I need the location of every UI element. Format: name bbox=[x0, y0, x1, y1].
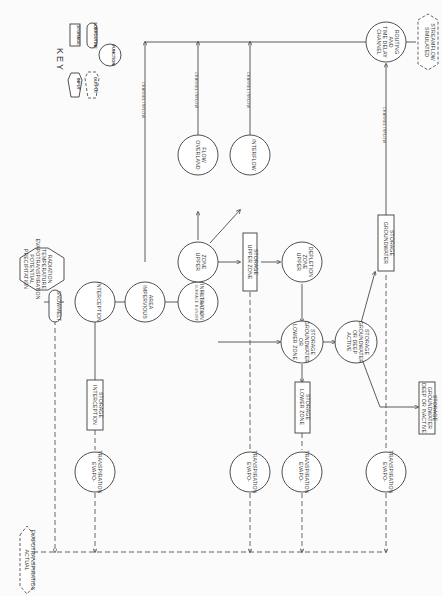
svg-text:TEMPERATURE: TEMPERATURE bbox=[41, 249, 47, 289]
svg-text:STORAGE: STORAGE bbox=[364, 329, 370, 355]
label-surface-runoff: SURFACE RUNOFF bbox=[194, 284, 198, 322]
svg-text:STORAGE: STORAGE bbox=[432, 395, 438, 421]
svg-text:UPPER: UPPER bbox=[195, 253, 201, 272]
svg-text:EVAPOTRANSPIRATION: EVAPOTRANSPIRATION bbox=[30, 530, 36, 591]
function-channel-routing: CHANNEL TIME DELAY AND ROUTING bbox=[366, 22, 406, 62]
svg-text:OVERLAND: OVERLAND bbox=[195, 140, 201, 169]
svg-text:STORAGE: STORAGE bbox=[253, 249, 259, 275]
svg-text:GROUNDWATER: GROUNDWATER bbox=[358, 321, 364, 363]
function-active-groundwater: ACTIVE OR DEEP GROUNDWATER STORAGE bbox=[335, 321, 377, 363]
svg-text:EVAPO-: EVAPO- bbox=[298, 462, 304, 482]
label-channel-inflow-3: CHANNEL INFLOW bbox=[246, 72, 250, 109]
function-upper-zone-depletion: UPPER ZONE DEPLETION bbox=[282, 242, 322, 282]
key-input-label: INPUT bbox=[76, 78, 81, 91]
upperzone-to-interflow-line bbox=[210, 210, 240, 243]
svg-text:ZONE: ZONE bbox=[201, 255, 207, 270]
svg-text:ZONE: ZONE bbox=[302, 255, 308, 270]
svg-text:AREA: AREA bbox=[148, 295, 154, 310]
key-function-label: FUNCTION bbox=[111, 45, 116, 66]
svg-text:EVAPOTRANSPIRATION: EVAPOTRANSPIRATION bbox=[35, 239, 41, 300]
svg-text:TRANSPIRATION: TRANSPIRATION bbox=[97, 451, 103, 494]
svg-text:INTERCEPTION: INTERCEPTION bbox=[92, 385, 98, 425]
svg-text:IMPERVIOUS: IMPERVIOUS bbox=[142, 285, 148, 319]
svg-text:GROUNDWATER: GROUNDWATER bbox=[427, 387, 433, 429]
svg-text:GROUNDWATER: GROUNDWATER bbox=[383, 222, 389, 264]
svg-text:LOWER ZONE: LOWER ZONE bbox=[292, 324, 298, 360]
storage-interception: INTERCEPTION STORAGE bbox=[87, 380, 104, 430]
svg-text:OR: OR bbox=[298, 338, 304, 346]
svg-text:AND: AND bbox=[388, 36, 394, 47]
svg-text:STREAMFLOW: STREAMFLOW bbox=[430, 23, 436, 61]
edge-labels: CHANNEL INFLOW CHANNEL INFLOW CHANNEL IN… bbox=[141, 72, 386, 322]
label-interflow-small: INTERFLOW bbox=[199, 291, 203, 315]
label-channel-inflow-2: CHANNEL INFLOW bbox=[194, 72, 198, 109]
legend-key: KEY STORAGE SUBROUTINE FUNCTION INPUT OU… bbox=[55, 22, 121, 98]
svg-text:EVAPO-: EVAPO- bbox=[246, 462, 252, 482]
svg-text:SIMULATED: SIMULATED bbox=[424, 27, 430, 57]
subroutine-snowmelt: SNOWMELT bbox=[49, 290, 62, 322]
svg-text:TRANSPIRATION: TRANSPIRATION bbox=[388, 451, 394, 494]
svg-text:SNOWMELT: SNOWMELT bbox=[56, 291, 62, 322]
svg-text:POTENTIAL: POTENTIAL bbox=[29, 254, 35, 284]
svg-text:TRANSPIRATION: TRANSPIRATION bbox=[304, 451, 310, 494]
watershed-model-flowchart: KEY STORAGE SUBROUTINE FUNCTION INPUT OU… bbox=[0, 0, 442, 596]
svg-text:INTERCEPTION: INTERCEPTION bbox=[96, 282, 102, 322]
function-impervious-area: IMPERVIOUS AREA bbox=[125, 282, 165, 322]
output-actual-evapotranspiration: ACTUAL EVAPOTRANSPIRATION bbox=[20, 526, 36, 594]
label-channel-inflow-1: CHANNEL INFLOW bbox=[141, 82, 145, 119]
function-evapotranspiration-4: EVAPO- TRANSPIRATION bbox=[366, 451, 406, 494]
svg-text:STORAGE: STORAGE bbox=[310, 329, 316, 355]
function-interception: INTERCEPTION bbox=[75, 282, 115, 322]
function-evapotranspiration-2: EVAPO- TRANSPIRATION bbox=[230, 451, 270, 494]
svg-text:EVAPO-: EVAPO- bbox=[91, 462, 97, 482]
label-channel-inflow-4: CHANNEL INFLOW bbox=[382, 107, 386, 144]
function-overland-flow: OVERLAND FLOW bbox=[178, 135, 218, 175]
svg-text:ACTIVE: ACTIVE bbox=[346, 332, 352, 352]
svg-text:PRECIPITATION: PRECIPITATION bbox=[23, 249, 29, 289]
function-interflow: INTERFLOW bbox=[230, 135, 270, 175]
svg-text:ROUTING: ROUTING bbox=[394, 30, 400, 55]
storage-deep-inactive-groundwater: DEEP OR INACTIVE GROUNDWATER STORAGE bbox=[419, 382, 438, 434]
storage-upper-zone: UPPER ZONE STORAGE bbox=[243, 233, 259, 291]
key-output-label: OUTPUT bbox=[93, 77, 98, 94]
svg-text:UPPER ZONE: UPPER ZONE bbox=[247, 245, 253, 280]
svg-text:UPPER: UPPER bbox=[296, 253, 302, 272]
key-storage-label: STORAGE bbox=[76, 25, 81, 45]
svg-text:INTERFLOW: INTERFLOW bbox=[251, 139, 257, 170]
svg-text:DEPLETION: DEPLETION bbox=[308, 247, 314, 277]
activegw-to-deep-line bbox=[363, 362, 418, 407]
svg-text:CHANNEL: CHANNEL bbox=[376, 29, 382, 55]
svg-text:ACTUAL: ACTUAL bbox=[24, 549, 30, 570]
svg-text:FLOW: FLOW bbox=[201, 147, 207, 162]
svg-text:TIME DELAY: TIME DELAY bbox=[382, 26, 388, 58]
svg-text:STORAGE: STORAGE bbox=[98, 392, 104, 418]
svg-text:DEEP OR INACTIVE: DEEP OR INACTIVE bbox=[421, 383, 427, 434]
svg-text:STORAGE: STORAGE bbox=[389, 230, 395, 256]
svg-text:RADIATION: RADIATION bbox=[47, 255, 53, 284]
output-simulated-streamflow: SIMULATED STREAMFLOW bbox=[418, 14, 438, 70]
function-evapotranspiration-3: EVAPO- TRANSPIRATION bbox=[282, 451, 322, 494]
storage-groundwater: GROUNDWATER STORAGE bbox=[378, 215, 395, 271]
function-evapotranspiration-1: EVAPO- TRANSPIRATION bbox=[75, 451, 115, 494]
function-upper-zone: UPPER ZONE bbox=[178, 242, 218, 282]
svg-text:TRANSPIRATION: TRANSPIRATION bbox=[252, 451, 258, 494]
svg-text:EVAPO-: EVAPO- bbox=[382, 462, 388, 482]
storage-lower-zone: LOWER ZONE STORAGE bbox=[295, 382, 311, 433]
key-function-circle bbox=[99, 44, 121, 66]
svg-text:LOWER ZONE: LOWER ZONE bbox=[299, 389, 305, 425]
svg-text:GROUNDWATER: GROUNDWATER bbox=[304, 321, 310, 363]
function-lower-zone: LOWER ZONE OR GROUNDWATER STORAGE bbox=[281, 321, 323, 363]
key-subroutine-label: SUBROUTINE bbox=[93, 22, 98, 49]
svg-text:OR DEEP: OR DEEP bbox=[352, 330, 358, 354]
activegw-to-gwstorage-line bbox=[361, 272, 375, 323]
svg-text:STORAGE: STORAGE bbox=[305, 394, 311, 420]
diagram-canvas: KEY STORAGE SUBROUTINE FUNCTION INPUT OU… bbox=[0, 0, 442, 596]
key-title: KEY bbox=[55, 48, 65, 72]
